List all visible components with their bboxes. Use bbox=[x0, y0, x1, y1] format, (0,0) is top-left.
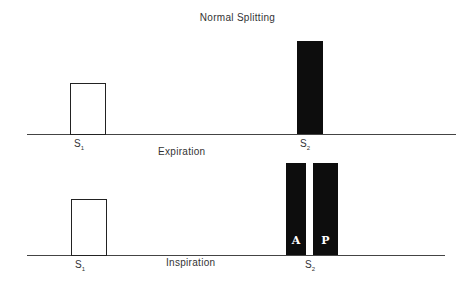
phase-label-inspiration: Inspiration bbox=[166, 257, 215, 268]
diagram-title: Normal Splitting bbox=[0, 12, 475, 23]
s2-label: S2 bbox=[305, 259, 315, 272]
p2-pulmonic-bar: P bbox=[313, 163, 338, 255]
s2-label: S2 bbox=[300, 138, 310, 151]
a2-aortic-bar: A bbox=[286, 163, 306, 255]
s1-sound-box bbox=[70, 83, 106, 135]
s1-label: S1 bbox=[75, 259, 85, 272]
s1-label: S1 bbox=[74, 138, 84, 151]
s2-single-bar bbox=[297, 41, 323, 134]
s1-sound-box bbox=[71, 199, 107, 256]
p2-label: P bbox=[313, 234, 338, 247]
phase-label-expiration: Expiration bbox=[158, 146, 205, 157]
a2-label: A bbox=[286, 234, 306, 247]
